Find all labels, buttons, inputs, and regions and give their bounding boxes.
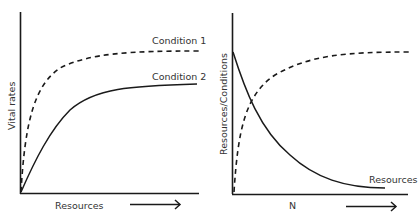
left-arrow-icon <box>130 200 180 209</box>
right-y-label: Resources/Conditions <box>218 53 229 155</box>
left-x-label: Resources <box>55 200 104 211</box>
right-arrow-icon <box>346 202 396 211</box>
resources-label: Resources <box>369 174 418 185</box>
left-panel: Condition 1 Condition 2 Vital rates Reso… <box>6 12 206 211</box>
right-panel: Resources Resources/Conditions N <box>218 13 418 211</box>
right-x-label: N <box>289 200 296 211</box>
resources-curve <box>233 52 385 188</box>
condition-2-curve <box>21 84 197 192</box>
condition-1-label: Condition 1 <box>152 35 206 46</box>
figure: Condition 1 Condition 2 Vital rates Reso… <box>0 0 419 217</box>
conditions-curve <box>234 52 410 192</box>
left-y-label: Vital rates <box>6 82 17 130</box>
condition-2-label: Condition 2 <box>152 71 206 82</box>
